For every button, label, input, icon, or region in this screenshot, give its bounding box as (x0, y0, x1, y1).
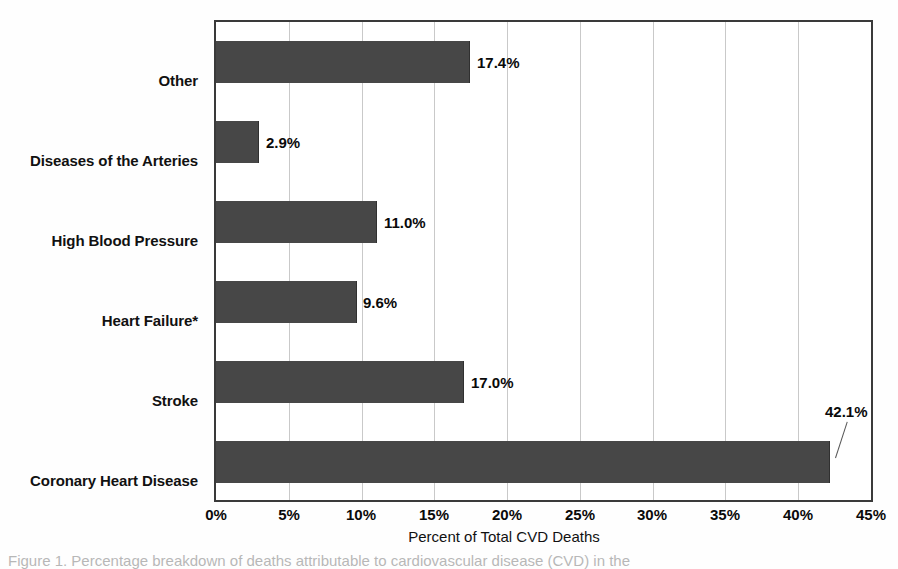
x-axis-title-text: Percent of Total CVD Deaths (408, 528, 599, 545)
y-axis-label-high-blood-pressure: High Blood Pressure (52, 232, 198, 249)
x-tick-5: 5% (278, 506, 300, 523)
plot-area: 17.4% 2.9% 11.0% 9.6% 17.0% 42.1% (214, 20, 873, 502)
bar-other (216, 41, 470, 83)
bar-high-blood-pressure (216, 201, 377, 243)
x-axis-title: Percent of Total CVD Deaths (0, 528, 898, 545)
chart-figure: Other Diseases of the Arteries High Bloo… (0, 0, 898, 569)
bar-label-diseases-of-the-arteries: 2.9% (266, 134, 300, 151)
gridline-25 (580, 22, 581, 500)
gridline-20 (507, 22, 508, 500)
bar-label-high-blood-pressure: 11.0% (384, 214, 426, 231)
bar-heart-failure (216, 281, 357, 323)
bar-label-heart-failure: 9.6% (363, 294, 397, 311)
y-axis-label-stroke: Stroke (152, 392, 198, 409)
figure-caption-clipped: Figure 1. Percentage breakdown of deaths… (0, 552, 898, 569)
y-axis-category-labels: Other Diseases of the Arteries High Bloo… (0, 20, 206, 502)
bar-coronary-heart-disease (216, 441, 830, 483)
x-tick-0: 0% (205, 506, 227, 523)
x-tick-15: 15% (419, 506, 449, 523)
y-axis-label-diseases-of-the-arteries: Diseases of the Arteries (30, 152, 198, 169)
x-tick-30: 30% (637, 506, 667, 523)
y-axis-label-coronary-heart-disease: Coronary Heart Disease (30, 472, 198, 489)
bar-label-coronary-heart-disease: 42.1% (825, 403, 868, 420)
bar-diseases-of-the-arteries (216, 121, 259, 163)
leader-line-coronary-heart-disease (835, 422, 848, 458)
bar-label-stroke: 17.0% (471, 374, 514, 391)
x-tick-45: 45% (856, 506, 886, 523)
x-tick-35: 35% (710, 506, 740, 523)
y-axis-label-heart-failure: Heart Failure* (102, 312, 198, 329)
gridline-5 (289, 22, 290, 500)
x-tick-25: 25% (565, 506, 595, 523)
gridline-30 (653, 22, 654, 500)
y-axis-label-other: Other (158, 72, 198, 89)
plot-inner: 17.4% 2.9% 11.0% 9.6% 17.0% 42.1% (216, 22, 871, 500)
gridline-35 (725, 22, 726, 500)
x-tick-20: 20% (492, 506, 522, 523)
gridline-15 (434, 22, 435, 500)
bar-label-other: 17.4% (477, 54, 520, 71)
bar-stroke (216, 361, 464, 403)
x-tick-10: 10% (346, 506, 376, 523)
figure-caption-text: Figure 1. Percentage breakdown of deaths… (8, 552, 892, 569)
x-tick-40: 40% (783, 506, 813, 523)
gridline-40 (798, 22, 799, 500)
gridline-10 (362, 22, 363, 500)
